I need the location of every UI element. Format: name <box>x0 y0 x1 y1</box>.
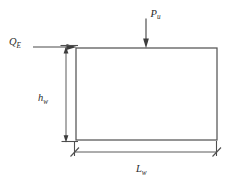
lateral-load-label: QE <box>9 36 22 50</box>
diagram-canvas: Pu QE hw <box>0 0 231 177</box>
wall-height-subscript: w <box>43 98 48 106</box>
wall-length-subscript: w <box>142 169 147 177</box>
lateral-load-subscript: E <box>16 42 22 50</box>
axial-load-arrow-group <box>143 19 149 49</box>
wall-height-label: hw <box>38 92 48 106</box>
axial-load-arrow-head-icon <box>143 39 149 49</box>
axial-load-subscript: u <box>157 13 161 21</box>
wall-length-label: Lw <box>135 163 147 177</box>
wall-rectangle <box>76 48 217 140</box>
length-dimension-group <box>71 141 222 157</box>
axial-load-label: Pu <box>150 8 161 22</box>
shear-wall-diagram: Pu QE hw <box>0 0 231 177</box>
